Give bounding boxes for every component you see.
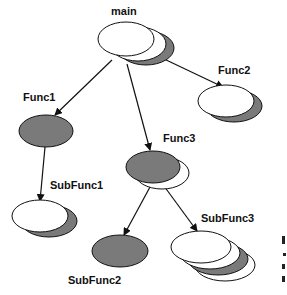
node-main[interactable]: main <box>98 5 174 65</box>
edge-func1-subfunc1 <box>40 147 45 201</box>
node-label-func2: Func2 <box>218 64 250 76</box>
node-func3[interactable]: Func3 <box>126 132 195 189</box>
edge-main-func2 <box>162 58 223 87</box>
cropped-text-fragment <box>282 276 285 282</box>
node-label-func1: Func1 <box>23 91 55 103</box>
node-label-func3: Func3 <box>163 132 195 144</box>
node-label-subfunc3: SubFunc3 <box>201 212 254 224</box>
node-func1[interactable]: Func1 <box>19 91 73 147</box>
call-tree-diagram: main Func2 Func1 Func3 SubFunc1 SubFunc2… <box>0 0 287 295</box>
node-label-subfunc2: SubFunc2 <box>68 274 121 286</box>
node-label-main: main <box>111 5 137 17</box>
node-func2[interactable]: Func2 <box>198 64 262 122</box>
cropped-text-fragment <box>283 253 286 256</box>
node-subfunc1[interactable]: SubFunc1 <box>12 179 103 237</box>
cropped-text-fragment <box>282 264 285 269</box>
node-subfunc2[interactable]: SubFunc2 <box>68 235 148 286</box>
edge-func3-subfunc2 <box>124 187 150 235</box>
node-label-subfunc1: SubFunc1 <box>50 179 103 191</box>
cropped-text-fragment <box>282 236 285 244</box>
edge-main-func1 <box>55 60 112 115</box>
edge-main-func3 <box>127 64 150 150</box>
edge-func3-subfunc3 <box>164 186 197 231</box>
node-subfunc3[interactable]: SubFunc3 <box>171 212 255 281</box>
